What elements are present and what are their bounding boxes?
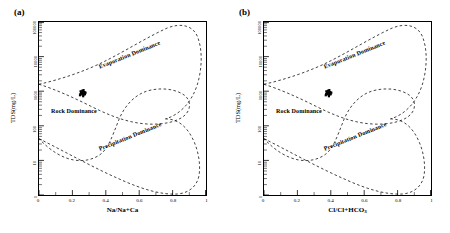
x-tick-label: 0.6 [136,198,142,203]
panel-b-tag: (b) [239,7,250,17]
y-tick-label: 10000 [33,56,38,67]
panel-a-x-axis-label-text: Na/Na+Ca [107,206,139,214]
x-minor-tick-marks [281,192,415,195]
panel-a: (a) TDS(mg/L) 1 10 100 1000 10000 100000 [0,0,225,233]
x-tick-label: 0.2 [294,198,300,203]
panel-a-x-axis-label: Na/Na+Ca [38,206,207,214]
panel-b-x-axis-label-text: Cl/Cl+HCO [328,206,364,214]
panel-a-plot-area: Evaporation Dominance Rock Dominance Pre… [38,21,207,196]
y-tick-label: 1000 [258,91,263,100]
panel-b: (b) TDS(mg/L) 1 10 100 1000 10000 100000 [225,0,450,233]
y-tick-label: 10 [258,161,263,166]
y-tick-label: 100 [33,126,38,133]
y-tick-label: 100000 [33,21,38,35]
gibbs-envelope-middle [264,84,415,160]
rock-dominance-label: Rock Dominance [51,108,97,114]
gibbs-envelope-middle [39,84,190,160]
panel-a-y-axis-label: TDS(mg/L) [9,93,16,123]
data-point-cluster [325,89,333,97]
gibbs-envelope-upper [39,25,201,119]
panel-b-x-axis-label: Cl/Cl+HCO3 [263,206,432,214]
x-tick-label: 0 [262,198,265,203]
gibbs-envelope-upper [264,25,426,119]
panel-b-x-axis-label-sub: 3 [364,209,367,214]
x-tick-label: 0.4 [327,198,333,203]
y-tick-label: 1000 [33,91,38,100]
y-tick-label: 100 [258,126,263,133]
y-tick-label: 10 [33,161,38,166]
x-tick-label: 0.2 [69,198,75,203]
x-minor-tick-marks [56,192,190,195]
panel-b-y-axis-label: TDS(mg/L) [234,93,241,123]
rock-dominance-label: Rock Dominance [276,108,322,114]
data-point-cluster [79,89,87,97]
x-tick-label: 1 [430,198,433,203]
y-tick-label: 100000 [258,21,263,35]
y-tick-marks [39,23,44,195]
y-tick-marks [264,23,269,195]
x-tick-label: 0.8 [395,198,401,203]
x-tick-label: 0.6 [361,198,367,203]
x-tick-label: 0.8 [170,198,176,203]
x-tick-label: 0.4 [102,198,108,203]
panel-b-plot-area: Evaporation Dominance Rock Dominance Pre… [263,21,432,196]
panel-a-tag: (a) [14,7,25,17]
x-tick-label: 1 [205,198,208,203]
gibbs-diagram-figure: (a) TDS(mg/L) 1 10 100 1000 10000 100000 [0,0,450,233]
x-tick-label: 0 [37,198,40,203]
y-tick-label: 10000 [258,56,263,67]
